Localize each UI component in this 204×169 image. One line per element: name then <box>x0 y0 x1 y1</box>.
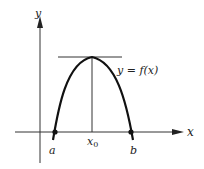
x-axis-label: x <box>187 125 194 139</box>
point-a <box>52 129 57 134</box>
point-a-label: a <box>49 144 56 157</box>
x0-label-subscript: 0 <box>93 140 98 149</box>
function-graph: y x y = f(x) a b x0 <box>0 0 204 169</box>
x-axis-arrow-icon <box>172 129 184 135</box>
curve-label: y = f(x) <box>116 64 158 77</box>
diagram-canvas: y x y = f(x) a b x0 <box>0 0 204 169</box>
point-b <box>128 129 133 134</box>
x0-label: x0 <box>87 135 98 149</box>
point-b-label: b <box>130 144 137 157</box>
y-axis-label: y <box>34 7 42 20</box>
